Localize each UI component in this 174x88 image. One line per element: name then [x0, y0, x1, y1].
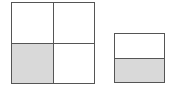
unshaded-cell: [53, 43, 95, 84]
shaded-cell: [114, 58, 165, 83]
unshaded-cell: [11, 2, 54, 44]
unshaded-cell: [114, 33, 165, 59]
square-quarters: [11, 2, 95, 84]
rectangle-halves: [114, 33, 165, 83]
unshaded-cell: [53, 2, 95, 44]
shaded-cell: [11, 43, 54, 84]
